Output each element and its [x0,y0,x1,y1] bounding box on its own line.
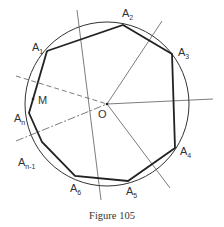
vertex-label-a3: A3 [178,46,189,60]
polygon-outline [29,25,175,181]
center-label: O [98,108,107,120]
ray-line-4 [107,104,170,188]
vertex-label-an-1: An-1 [18,156,36,170]
vertex-label-an: An [14,112,25,126]
center-point [106,103,109,106]
vertex-label-a4: A4 [180,145,191,159]
ray-line-1 [77,10,101,200]
vertex-label-a1: A1 [32,41,43,55]
vertex-label-a5: A5 [126,185,137,199]
vertex-label-a2: A2 [122,7,133,21]
point-m [32,98,35,101]
polygon-inscribed-circle-diagram: A1A2A3A4A5A6An-1An M O Figure 105 [0,0,224,227]
ray-line-3 [107,99,213,104]
ray-line-2 [107,21,162,104]
vertex-label-a6: A6 [70,182,81,196]
point-m-label: M [38,94,47,106]
ray-line-5 [16,76,107,104]
figure-caption: Figure 105 [89,210,135,221]
